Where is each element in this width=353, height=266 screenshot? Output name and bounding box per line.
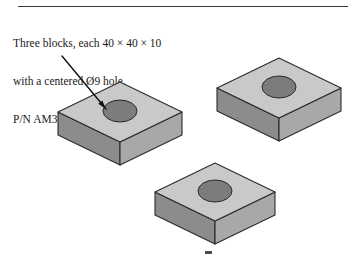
block-right-hole xyxy=(262,76,296,98)
bottom-smudge-mark xyxy=(205,251,212,254)
block-center-hole xyxy=(198,180,232,202)
block-center xyxy=(155,163,275,244)
isometric-blocks-illustration xyxy=(0,0,353,266)
blocks-group xyxy=(58,58,341,244)
block-left xyxy=(58,82,182,165)
block-left-hole xyxy=(103,100,137,122)
block-right xyxy=(217,58,341,141)
illustration-page: Three blocks, each 40 × 40 × 10 with a c… xyxy=(0,0,353,266)
